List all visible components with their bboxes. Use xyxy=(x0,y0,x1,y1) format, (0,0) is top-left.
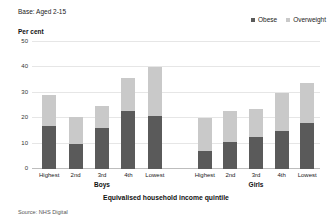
x-axis-title: Equivalised household income quintile xyxy=(0,194,332,201)
bar-segment-overweight[interactable] xyxy=(42,95,56,125)
stacked-bar[interactable] xyxy=(121,78,135,169)
x-tick-label: 4th xyxy=(277,172,285,178)
x-tick-label: 2nd xyxy=(225,172,235,178)
bar-segment-overweight[interactable] xyxy=(148,67,162,115)
plot-area: 01020304050 Highest2nd3rd4thLowestHighes… xyxy=(32,42,320,169)
bar-segment-overweight[interactable] xyxy=(223,111,237,143)
stacked-bar[interactable] xyxy=(148,67,162,169)
bar-segment-overweight[interactable] xyxy=(300,83,314,124)
y-tick-label: 10 xyxy=(21,140,28,146)
x-tick-label: 3rd xyxy=(98,172,107,178)
stacked-bar[interactable] xyxy=(69,117,83,169)
legend-label-obese: Obese xyxy=(258,16,277,23)
bar-segment-obese[interactable] xyxy=(42,126,56,169)
bar-group: 3rd xyxy=(249,42,263,169)
panel-label-boys: Boys xyxy=(94,181,110,188)
x-tick-label: Highest xyxy=(195,172,215,178)
bar-segment-overweight[interactable] xyxy=(121,78,135,111)
x-tick-label: 2nd xyxy=(71,172,81,178)
chart-legend: Obese Overweight xyxy=(251,16,326,23)
x-tick-label: 4th xyxy=(124,172,132,178)
bar-group: Highest xyxy=(42,42,56,169)
x-tick-label: 3rd xyxy=(252,172,261,178)
bar-segment-overweight[interactable] xyxy=(249,109,263,137)
x-tick-label: Highest xyxy=(39,172,59,178)
bar-segment-obese[interactable] xyxy=(121,111,135,169)
x-tick-label: Lowest xyxy=(145,172,164,178)
bar-group: 4th xyxy=(121,42,135,169)
legend-item-obese: Obese xyxy=(251,16,277,23)
stacked-bar[interactable] xyxy=(300,83,314,169)
stacked-bar[interactable] xyxy=(95,106,109,170)
bar-segment-obese[interactable] xyxy=(300,123,314,169)
bar-segment-obese[interactable] xyxy=(69,144,83,169)
legend-swatch-overweight-icon xyxy=(286,18,290,22)
bar-segment-overweight[interactable] xyxy=(69,117,83,144)
x-tick-label: Lowest xyxy=(298,172,317,178)
stacked-bar[interactable] xyxy=(223,111,237,169)
bar-group: 3rd xyxy=(95,42,109,169)
stacked-bar[interactable] xyxy=(198,118,212,169)
bar-segment-overweight[interactable] xyxy=(198,118,212,151)
bar-segment-obese[interactable] xyxy=(148,116,162,169)
bar-segment-overweight[interactable] xyxy=(95,106,109,129)
bar-group: Lowest xyxy=(300,42,314,169)
bar-group: 2nd xyxy=(69,42,83,169)
y-tick-label: 20 xyxy=(21,114,28,120)
legend-swatch-obese-icon xyxy=(251,18,255,22)
y-tick-label: 40 xyxy=(21,63,28,69)
stacked-bar[interactable] xyxy=(275,93,289,169)
bar-group: 2nd xyxy=(223,42,237,169)
chart-container: Base: Aged 2-15 Per cent Obese Overweigh… xyxy=(0,0,332,223)
bar-segment-obese[interactable] xyxy=(95,128,109,169)
stacked-bar[interactable] xyxy=(249,109,263,169)
y-tick-label: 0 xyxy=(25,165,28,171)
stacked-bar[interactable] xyxy=(42,95,56,169)
bar-group: Highest xyxy=(198,42,212,169)
y-tick-label: 30 xyxy=(21,89,28,95)
legend-item-overweight: Overweight xyxy=(286,16,326,23)
panel-label-girls: Girls xyxy=(249,181,264,188)
source-note: Source: NHS Digital xyxy=(18,209,68,215)
bar-segment-obese[interactable] xyxy=(223,142,237,169)
bar-group: Lowest xyxy=(148,42,162,169)
bar-group: 4th xyxy=(275,42,289,169)
bar-segment-overweight[interactable] xyxy=(275,93,289,131)
bar-segment-obese[interactable] xyxy=(249,137,263,169)
y-tick-label: 50 xyxy=(21,38,28,44)
base-note: Base: Aged 2-15 xyxy=(18,8,66,15)
legend-label-overweight: Overweight xyxy=(293,16,326,23)
bar-segment-obese[interactable] xyxy=(275,131,289,169)
y-axis-title: Per cent xyxy=(18,28,44,35)
bar-segment-obese[interactable] xyxy=(198,151,212,169)
